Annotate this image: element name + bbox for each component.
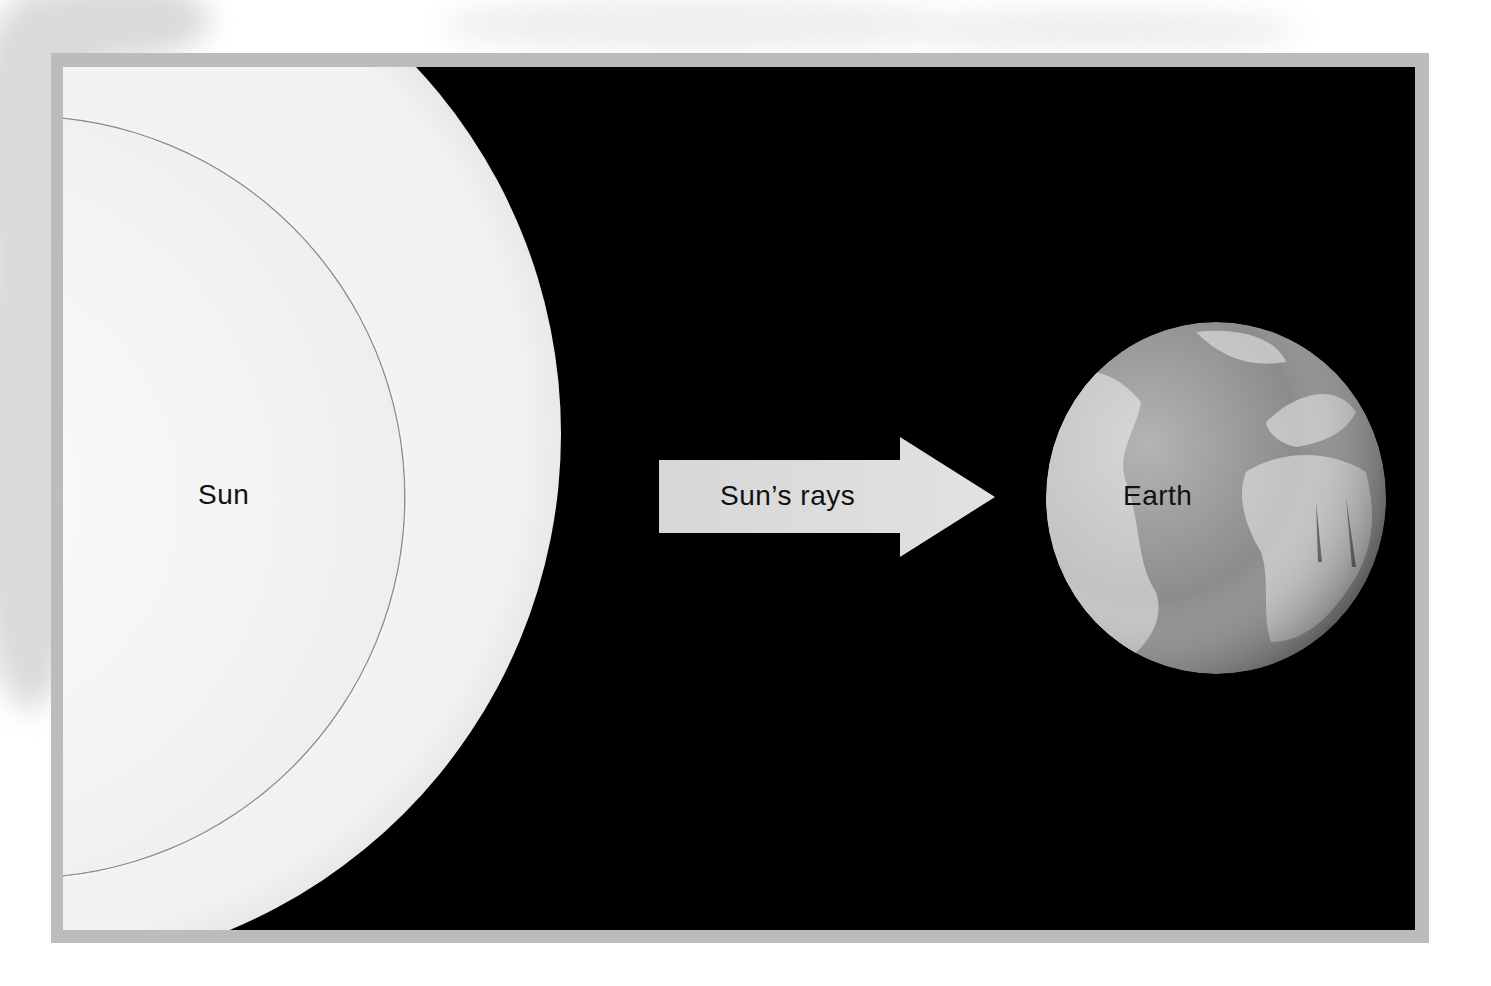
space-background: Sun Sun’s rays — [63, 67, 1415, 930]
earth-label: Earth — [1123, 482, 1192, 510]
sun-label: Sun — [198, 481, 249, 509]
earth-globe — [1046, 322, 1386, 674]
suns-rays-label: Sun’s rays — [720, 482, 855, 510]
